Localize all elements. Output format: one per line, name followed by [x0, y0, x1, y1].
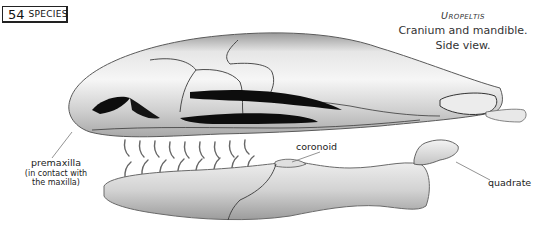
label-coronoid: coronoid [296, 141, 337, 152]
premaxilla-text: premaxilla [16, 157, 96, 168]
upper-teeth [125, 140, 250, 158]
label-premaxilla: premaxilla [16, 157, 96, 168]
premaxilla-note-line-2: the maxilla) [14, 178, 98, 187]
label-quadrate: quadrate [488, 177, 531, 188]
cranium [69, 33, 526, 137]
coronoid-leader [292, 152, 320, 162]
label-premaxilla-note: (in contact with the maxilla) [14, 169, 98, 187]
mandible [104, 159, 429, 220]
skull-illustration [0, 0, 558, 234]
premaxilla-note-line-1: (in contact with [14, 169, 98, 178]
quadrate-leader [456, 162, 490, 180]
quadrate-bone [414, 140, 458, 165]
premaxilla-leader [52, 132, 72, 158]
